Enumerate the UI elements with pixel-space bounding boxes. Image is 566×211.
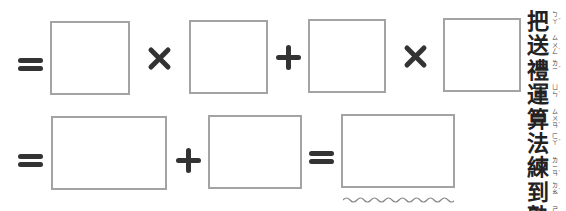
equals-sign-row2-2 xyxy=(309,151,334,164)
title-char: 禮 ㄌㄧˇ xyxy=(525,59,566,83)
title-char-zhuyin: ㄌㄧㄢˋ xyxy=(552,157,562,177)
answer-box-row2-result[interactable] xyxy=(341,114,455,188)
wavy-underline xyxy=(343,196,454,204)
title-char-zhuyin: ㄉㄠˋ xyxy=(552,182,562,195)
title-char: 把 ㄅㄚˇ xyxy=(525,10,566,34)
plus-sign-row2 xyxy=(176,148,201,173)
title-char-zhuyin: ㄈㄚˇ xyxy=(552,133,562,146)
title-char-han: 禮 xyxy=(527,59,549,83)
title-char-zhuyin: ㄙㄨㄥˋ xyxy=(552,35,562,55)
title-char: 到 ㄉㄠˋ xyxy=(525,181,566,205)
equals-sign-row2-1 xyxy=(18,154,43,167)
title-char: 算 ㄙㄨㄢˋ xyxy=(525,108,566,132)
title-char: 運 ㄩㄣˋ xyxy=(525,83,566,107)
answer-box-row1-3[interactable] xyxy=(308,19,386,93)
title-char-han: 到 xyxy=(527,181,549,205)
title-char: 法 ㄈㄚˇ xyxy=(525,132,566,156)
answer-box-row2-2[interactable] xyxy=(208,115,302,189)
vertical-title: 把 ㄅㄚˇ 送 ㄙㄨㄥˋ 禮 ㄌㄧˇ 運 ㄩㄣˋ 算 ㄙㄨㄢˋ 法 ㄈㄚˇ 練 … xyxy=(525,10,566,211)
title-char-zhuyin: ㄌㄧˇ xyxy=(552,60,562,73)
title-char-han: 練 xyxy=(527,156,549,180)
title-char-han: 熟 xyxy=(527,205,549,211)
answer-box-row2-1[interactable] xyxy=(51,116,167,190)
title-char-han: 運 xyxy=(527,83,549,107)
title-char-zhuyin: ㄅㄚˇ xyxy=(552,11,562,24)
title-char-zhuyin: ㄕㄡˊ xyxy=(552,206,562,211)
title-char-han: 算 xyxy=(527,108,549,132)
multiply-sign-row1-2 xyxy=(403,44,428,69)
title-char-han: 送 xyxy=(527,34,549,58)
answer-box-row1-2[interactable] xyxy=(189,20,268,94)
multiply-sign-row1-1 xyxy=(147,46,172,71)
answer-box-row1-4[interactable] xyxy=(443,18,521,92)
equals-sign-row1 xyxy=(18,58,43,71)
title-char-zhuyin: ㄩㄣˋ xyxy=(552,84,562,97)
title-char: 熟 ㄕㄡˊ xyxy=(525,205,566,211)
plus-sign-row1 xyxy=(276,45,301,70)
title-char-zhuyin: ㄙㄨㄢˋ xyxy=(552,109,562,129)
title-char: 練 ㄌㄧㄢˋ xyxy=(525,156,566,180)
title-char-han: 把 xyxy=(527,10,549,34)
title-char: 送 ㄙㄨㄥˋ xyxy=(525,34,566,58)
answer-box-row1-1[interactable] xyxy=(50,21,130,95)
title-char-han: 法 xyxy=(527,132,549,156)
